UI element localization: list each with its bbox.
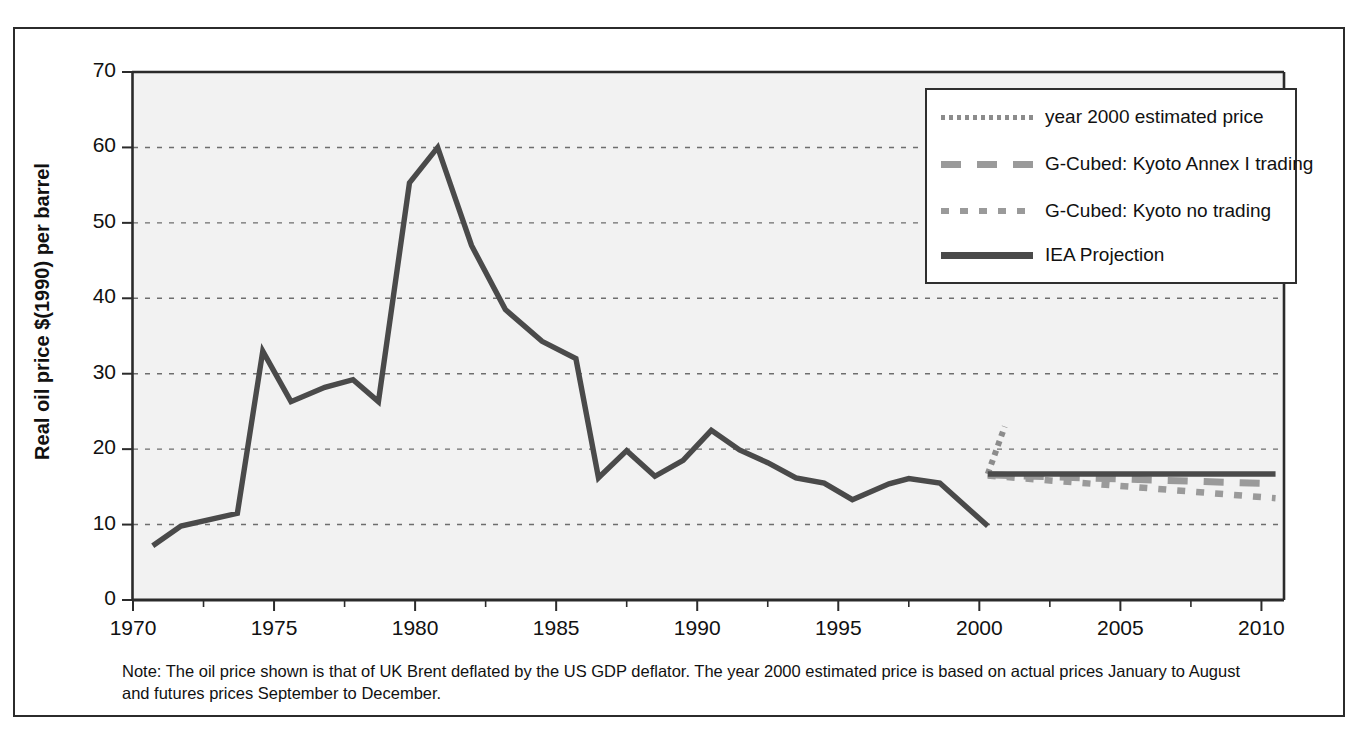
- y-tick-label: 30: [64, 360, 116, 384]
- figure-note: Note: The oil price shown is that of UK …: [122, 660, 1262, 704]
- y-axis-label: Real oil price $(1990) per barrel: [31, 102, 54, 522]
- x-tick-label: 2010: [1216, 616, 1306, 640]
- y-tick-label: 20: [64, 435, 116, 459]
- figure-container: Real oil price $(1990) per barrel 010203…: [0, 0, 1363, 750]
- legend-swatch-solid-icon: [941, 247, 1033, 263]
- y-tick-label: 10: [64, 511, 116, 535]
- legend-swatch-dotted-fine-icon: [941, 109, 1033, 125]
- x-tick-label: 2005: [1075, 616, 1165, 640]
- x-tick-label: 1980: [370, 616, 460, 640]
- y-tick-label: 0: [64, 586, 116, 610]
- x-tick-label: 1990: [652, 616, 742, 640]
- legend: year 2000 estimated price G-Cubed: Kyoto…: [925, 88, 1297, 284]
- x-tick-label: 1995: [793, 616, 883, 640]
- legend-label-iea-projection: IEA Projection: [1045, 244, 1164, 266]
- y-tick-label: 60: [64, 133, 116, 157]
- legend-swatch-dotted-square-icon: [941, 203, 1033, 219]
- legend-label-kyoto-annex-i-trading: G-Cubed: Kyoto Annex I trading: [1045, 153, 1313, 175]
- y-tick-label: 50: [64, 209, 116, 233]
- y-tick-label: 40: [64, 284, 116, 308]
- legend-swatch-dashed-icon: [941, 156, 1033, 172]
- legend-label-year-2000-estimated-price: year 2000 estimated price: [1045, 106, 1264, 128]
- x-tick-label: 1970: [88, 616, 178, 640]
- legend-label-kyoto-no-trading: G-Cubed: Kyoto no trading: [1045, 200, 1271, 222]
- y-tick-label: 70: [64, 58, 116, 82]
- x-tick-label: 1975: [229, 616, 319, 640]
- x-tick-label: 2000: [934, 616, 1024, 640]
- x-tick-label: 1985: [511, 616, 601, 640]
